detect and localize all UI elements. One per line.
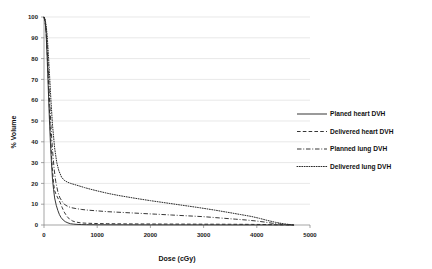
chart-canvas: 0102030405060708090100 01000200030004000…: [0, 0, 432, 269]
x-tick-label: 5000: [303, 232, 317, 238]
y-axis-title: % Volume: [10, 115, 17, 148]
x-tick-label: 1000: [91, 232, 105, 238]
dvh-chart: 0102030405060708090100 01000200030004000…: [0, 0, 432, 269]
x-tick-label: 4000: [250, 232, 264, 238]
y-tick-label: 20: [31, 181, 38, 187]
y-tick-label: 10: [31, 201, 38, 207]
x-axis-title: Dose (cGy): [159, 255, 196, 263]
x-tick-label: 3000: [197, 232, 211, 238]
y-tick-label: 30: [31, 160, 38, 166]
y-tick-label: 90: [31, 35, 38, 41]
y-tick-label: 100: [28, 14, 39, 20]
legend-label: Delivered lung DVH: [330, 163, 391, 171]
y-tick-label: 80: [31, 56, 38, 62]
y-tick-label: 40: [31, 139, 38, 145]
x-tick-label: 2000: [144, 232, 158, 238]
y-tick-label: 50: [31, 118, 38, 124]
legend-label: Planed heart DVH: [330, 110, 386, 117]
y-tick-label: 60: [31, 97, 38, 103]
y-tick-label: 70: [31, 77, 38, 83]
legend-label: Delivered heart DVH: [330, 128, 394, 135]
legend-label: Planned lung DVH: [330, 145, 387, 153]
